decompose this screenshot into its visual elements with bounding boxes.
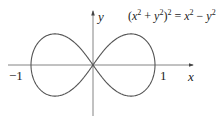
tick-label-neg-one: −1 [9, 69, 23, 82]
tick-label-one: 1 [160, 69, 167, 82]
lemniscate-figure: y x −1 1 (x2 + y2)2 = x2 − y2 [0, 0, 220, 122]
y-axis-label: y [98, 10, 104, 23]
equation-label: (x2 + y2)2 = x2 − y2 [128, 9, 216, 24]
x-axis-label: x [188, 70, 194, 83]
